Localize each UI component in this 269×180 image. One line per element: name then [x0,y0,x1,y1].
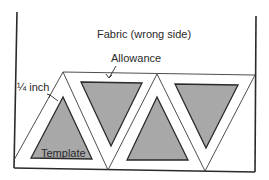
template-inverted-2 [175,84,238,148]
fabric-title: Fabric (wrong side) [97,29,191,40]
allowance-pointer-icon [109,66,116,78]
cut-line-top [63,72,255,75]
template-inverted-1 [81,82,142,146]
fabric-diagram: Fabric (wrong side) Allowance ¼ inch Tem… [0,0,269,180]
allowance-label: Allowance [111,53,161,64]
fabric-bottom-edge [14,168,255,172]
fabric-right-edge [255,16,256,172]
template-label: Template [41,148,86,159]
seam-width-label: ¼ inch [17,82,49,93]
template-upright-2 [127,97,188,160]
quarter-inch-pointer-icon [50,95,58,101]
